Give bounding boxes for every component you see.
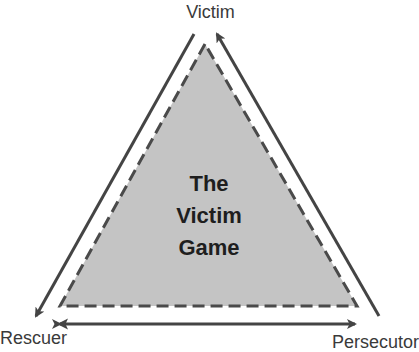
node-label-victim: Victim (0, 2, 419, 23)
node-label-rescuer: Rescuer (0, 328, 67, 349)
title-line-2: Victim (149, 200, 269, 232)
title-line-1: The (149, 168, 269, 200)
title-line-3: Game (149, 232, 269, 264)
node-label-persecutor: Persecutor (332, 332, 419, 352)
diagram-title: The Victim Game (149, 168, 269, 264)
